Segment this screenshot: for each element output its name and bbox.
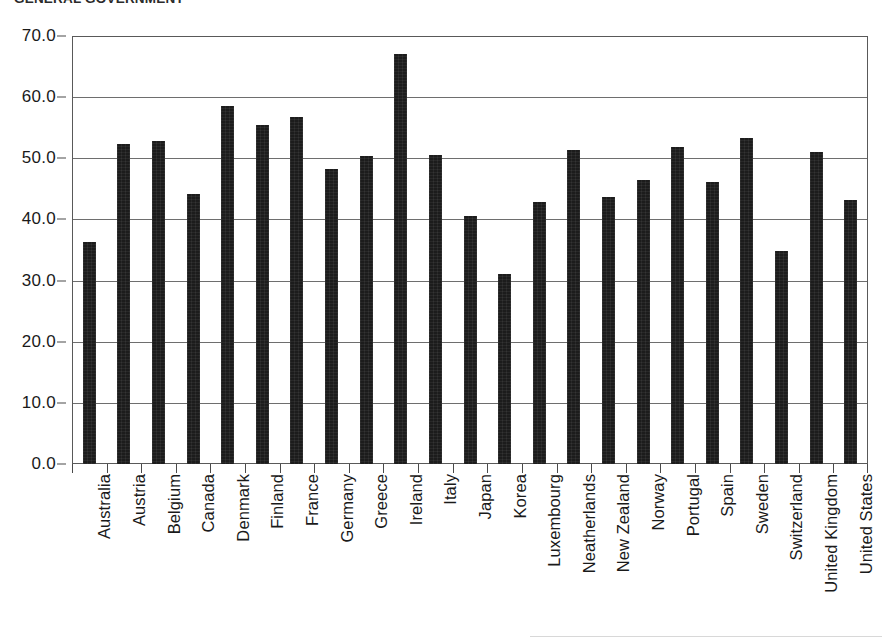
bar [187,194,200,464]
bar [498,274,511,464]
y-axis-tick-mark [57,402,66,403]
x-axis-tick-label: Ireland [407,474,426,525]
x-axis-tick-mark [141,464,142,473]
y-axis-tick-mark [57,464,66,465]
y-axis-tick-mark [57,158,66,159]
bars-container [72,36,868,464]
x-axis-tick-label: Belgium [165,474,184,534]
y-axis-tick-label: 20.0 [22,332,56,352]
x-axis-tick-label: Germany [338,474,357,543]
bar-chart: 70.060.050.040.030.020.010.00.0 Australi… [0,0,882,639]
x-axis-tick-label: New Zealand [614,474,633,572]
bar [429,155,442,464]
x-axis-tick-mark [383,464,384,473]
bar [810,152,823,464]
x-axis-tick-label: Neatherlands [580,474,599,573]
x-axis-tick-label: Australia [95,474,114,539]
bar [464,216,477,464]
x-axis-ticks [72,464,868,473]
y-axis-tick-label: 60.0 [22,87,56,107]
x-axis-tick-mark [799,464,800,473]
y-axis-tick-mark [57,280,66,281]
y-axis-tick-mark [57,219,66,220]
x-axis-tick-label: Greece [372,474,391,529]
x-axis-tick-mark [280,464,281,473]
y-axis-tick-label: 40.0 [22,209,56,229]
x-axis-tick-mark [833,464,834,473]
x-axis-tick-mark [487,464,488,473]
x-axis-tick-mark [522,464,523,473]
x-axis-tick-label: United Kingdom [822,474,841,593]
x-axis-tick-mark [72,464,73,473]
x-axis-tick-mark [867,464,868,473]
y-axis-tick-label: 50.0 [22,148,56,168]
x-axis-tick-label: Canada [199,474,218,532]
x-axis-tick-label: Denmark [234,474,253,542]
bar [637,180,650,464]
x-axis-tick-mark [730,464,731,473]
x-axis-tick-label: France [303,474,322,526]
y-axis-tick-label: 30.0 [22,271,56,291]
x-axis-tick-mark [349,464,350,473]
scan-edge-artifact [530,636,882,637]
bar [844,200,857,464]
x-axis-tick-label: Switzerland [787,474,806,560]
y-axis-tick-label: 70.0 [22,26,56,46]
x-axis-tick-mark [245,464,246,473]
bar [290,117,303,464]
bar [740,138,753,465]
bar [602,197,615,464]
y-axis-tick-mark [57,36,66,37]
bar [706,182,719,464]
bar [221,106,234,464]
x-axis-tick-label: Austria [130,474,149,526]
bar [256,125,269,464]
x-axis-tick-mark [210,464,211,473]
y-axis-tick-mark [57,341,66,342]
bar [775,251,788,464]
bar [394,54,407,464]
x-axis-tick-label: Japan [476,474,495,519]
x-axis-tick-mark [107,464,108,473]
bar [533,202,546,464]
y-axis-tick-label: 0.0 [31,454,56,474]
y-axis-tick-label: 10.0 [22,393,56,413]
x-axis-tick-mark [453,464,454,473]
x-axis-tick-label: Luxembourg [545,474,564,567]
x-axis-tick-label: Korea [511,474,530,519]
bar [360,156,373,464]
x-axis-tick-label: Finland [268,474,287,529]
x-axis-tick-label: Sweden [753,474,772,534]
bar [325,169,338,464]
x-axis-tick-label: Italy [441,474,460,505]
x-axis-tick-mark [695,464,696,473]
x-axis-tick-mark [418,464,419,473]
x-axis-tick-mark [314,464,315,473]
x-axis-tick-mark [660,464,661,473]
bar [567,150,580,464]
x-axis-tick-mark [176,464,177,473]
y-axis-tick-mark [57,97,66,98]
bar [152,141,165,464]
x-axis-tick-label: Spain [718,474,737,517]
x-axis-tick-label: United States [857,474,876,574]
x-axis-tick-mark [591,464,592,473]
y-axis: 70.060.050.040.030.020.010.00.0 [0,0,72,470]
x-axis-tick-label: Norway [649,474,668,531]
bar [117,144,130,464]
x-axis-tick-mark [557,464,558,473]
bar [83,242,96,464]
x-axis: AustraliaAustriaBelgiumCanadaDenmarkFinl… [72,474,868,634]
bar [671,147,684,464]
x-axis-tick-mark [764,464,765,473]
x-axis-tick-label: Portugal [684,474,703,536]
x-axis-tick-mark [626,464,627,473]
